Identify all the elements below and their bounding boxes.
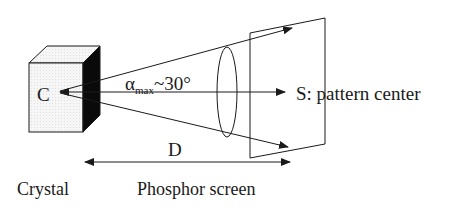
ebsd-geometry-diagram: C αmax~30° S: pattern center D Crystal P… (0, 0, 467, 213)
crystal-label: Crystal (17, 179, 69, 199)
distance-label: D (168, 139, 182, 160)
angle-label: αmax~30° (125, 73, 191, 96)
diagram-canvas: C αmax~30° S: pattern center D Crystal P… (0, 0, 467, 213)
phosphor-screen-label: Phosphor screen (137, 179, 255, 199)
angle-symbol: α (125, 73, 135, 94)
pattern-center-label: S: pattern center (296, 83, 421, 104)
angle-value: ~30° (154, 73, 191, 94)
crystal-center-label: C (37, 84, 50, 105)
angle-subscript: max (135, 84, 154, 96)
